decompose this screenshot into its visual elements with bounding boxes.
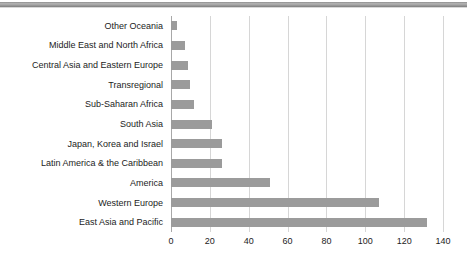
bar-row <box>171 100 443 109</box>
bar-row <box>171 120 443 129</box>
bar <box>171 120 212 129</box>
bar <box>171 139 222 148</box>
plot-area <box>171 16 443 232</box>
bar <box>171 61 188 70</box>
category-label: Western Europe <box>98 198 163 208</box>
bar <box>171 80 190 89</box>
value-axis-tick-labels: 020406080100120140 <box>171 236 443 250</box>
tick-label-120: 120 <box>397 236 412 246</box>
tick-label-40: 40 <box>244 236 254 246</box>
category-label: America <box>130 178 163 188</box>
bar <box>171 21 177 30</box>
tick-label-100: 100 <box>358 236 373 246</box>
tick-label-140: 140 <box>435 236 450 246</box>
bar-row <box>171 218 443 227</box>
horizontal-bar-chart: Other OceaniaMiddle East and North Afric… <box>0 0 467 261</box>
category-label: Latin America & the Caribbean <box>41 158 163 168</box>
bar <box>171 41 185 50</box>
category-label: Central Asia and Eastern Europe <box>32 60 163 70</box>
tick-label-20: 20 <box>205 236 215 246</box>
bar-row <box>171 21 443 30</box>
category-label: Middle East and North Africa <box>49 40 163 50</box>
category-label: South Asia <box>120 119 163 129</box>
tick-label-60: 60 <box>283 236 293 246</box>
category-label: Japan, Korea and Israel <box>67 139 163 149</box>
bar-row <box>171 41 443 50</box>
bar-row <box>171 139 443 148</box>
bar-row <box>171 61 443 70</box>
tick-label-0: 0 <box>168 236 173 246</box>
bar-row <box>171 198 443 207</box>
bar <box>171 159 222 168</box>
bar-row <box>171 159 443 168</box>
category-label: East Asia and Pacific <box>79 217 163 227</box>
tick-label-80: 80 <box>321 236 331 246</box>
gridline-140 <box>443 16 444 232</box>
category-label: Transregional <box>108 80 163 90</box>
category-axis-labels: Other OceaniaMiddle East and North Afric… <box>0 16 167 232</box>
category-label: Other Oceania <box>104 21 163 31</box>
category-label: Sub-Saharan Africa <box>85 99 163 109</box>
bar <box>171 100 194 109</box>
bar <box>171 198 379 207</box>
bar <box>171 178 270 187</box>
bar <box>171 218 427 227</box>
bar-row <box>171 80 443 89</box>
bar-row <box>171 178 443 187</box>
